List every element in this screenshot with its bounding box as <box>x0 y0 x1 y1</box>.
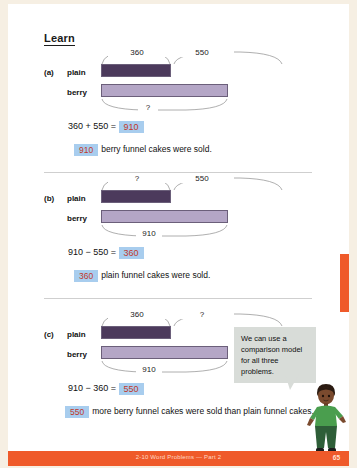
page-title: Learn <box>44 32 75 46</box>
problem-a-letter: (a) <box>44 68 54 77</box>
problem-c-berry-label: berry <box>67 350 87 359</box>
problem-b-sentence-text: plain funnel cakes were sold. <box>101 270 210 280</box>
problem-b-bottom-brace <box>100 224 230 238</box>
page-content: Learn (a) plain berry 360 550 ? 360 + 55… <box>8 4 349 466</box>
problem-c-equation-answer: 550 <box>119 383 144 395</box>
problem-c-bottom-brace <box>100 360 230 374</box>
problem-b-plain-label: plain <box>67 194 86 203</box>
footer-lesson-title: 2-10 Word Problems — Part 2 <box>8 454 349 460</box>
problem-a-top-left-value: 360 <box>108 48 166 57</box>
problem-a-bottom-brace <box>100 98 230 112</box>
problem-c-plain-label: plain <box>67 330 86 339</box>
problem-c-letter: (c) <box>44 330 54 339</box>
problem-b-berry-bar <box>101 210 228 223</box>
problem-a-equation-answer: 910 <box>119 121 144 133</box>
problem-c-top-right-value: ? <box>170 310 234 319</box>
problem-a-plain-label: plain <box>67 68 86 77</box>
problem-a-plain-bar <box>101 64 171 77</box>
problem-a-sentence: 910berry funnel cakes were sold. <box>74 144 212 156</box>
problem-a-berry-label: berry <box>67 88 87 97</box>
problem-a-top-right-value: 550 <box>170 48 234 57</box>
problem-c-sentence-answer: 550 <box>65 406 89 418</box>
problem-a-bottom-value: ? <box>138 103 158 112</box>
problem-a-sentence-text: berry funnel cakes were sold. <box>101 144 212 154</box>
problem-c-top-left-value: 360 <box>108 310 166 319</box>
problem-c-sentence: 550more berry funnel cakes were sold tha… <box>65 406 314 418</box>
problem-b-top-right-value: 550 <box>170 174 234 183</box>
problem-c-equation: 910 − 360 = 550 <box>68 383 144 395</box>
problem-c-berry-bar <box>101 346 228 359</box>
problem-b-top-left-value: ? <box>108 174 166 183</box>
problem-b-sentence-answer: 360 <box>74 270 98 282</box>
problem-b-bottom-value: 910 <box>136 229 162 238</box>
speech-bubble-tail <box>285 374 299 390</box>
student-character-illustration <box>304 382 348 454</box>
worksheet-page: Learn (a) plain berry 360 550 ? 360 + 55… <box>8 4 349 466</box>
problem-b-equation-answer: 360 <box>119 247 144 259</box>
problem-b-berry-label: berry <box>67 214 87 223</box>
problem-c-equation-left: 910 − 360 = <box>68 383 119 393</box>
problem-a-equation: 360 + 550 = 910 <box>68 121 144 133</box>
divider-2 <box>44 298 312 299</box>
divider-1 <box>44 172 312 173</box>
problem-a-equation-left: 360 + 550 = <box>68 121 119 131</box>
problem-a-sentence-answer: 910 <box>74 144 98 156</box>
problem-b-equation: 910 − 550 = 360 <box>68 247 144 259</box>
problem-b-sentence: 360plain funnel cakes were sold. <box>74 270 210 282</box>
problem-b-letter: (b) <box>44 194 54 203</box>
page-footer: 2-10 Word Problems — Part 2 65 <box>8 451 349 466</box>
problem-c-bottom-value: 910 <box>136 365 162 374</box>
problem-c-sentence-text: more berry funnel cakes were sold than p… <box>92 406 314 416</box>
problem-b-equation-left: 910 − 550 = <box>68 247 119 257</box>
problem-c-plain-bar <box>101 326 171 339</box>
problem-b-plain-bar <box>101 190 171 203</box>
problem-a-berry-bar <box>101 84 228 97</box>
speech-bubble: We can use a comparison model for all th… <box>234 327 316 383</box>
footer-page-number: 65 <box>333 454 340 461</box>
